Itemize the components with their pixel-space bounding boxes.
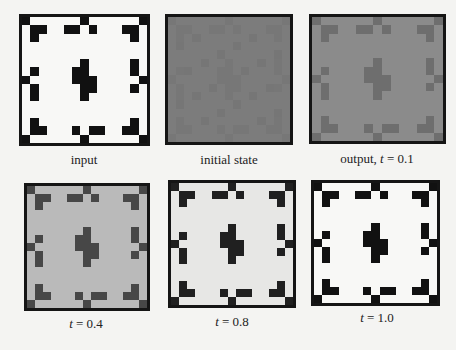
grid-cell [347,75,356,83]
grid-cell [282,17,290,25]
grid-cell [184,42,192,50]
grid-cell [429,215,437,223]
grid-cell [312,50,321,58]
grid-cell [355,183,363,191]
grid-cell [204,272,212,280]
grid-cell [228,256,236,264]
grid-cell [241,50,249,58]
grid-cell [171,183,179,191]
grid-cell [122,93,130,101]
grid-cell [269,248,277,256]
grid-cell [249,125,257,133]
grid-cell [363,231,371,239]
grid-cell [75,194,83,202]
grid-cell [408,100,417,108]
grid-cell [314,255,322,263]
grid-cell [168,50,176,58]
grid-cell [99,186,107,194]
grid-cell [249,92,257,100]
grid-cell [225,75,233,83]
grid-cell [434,34,443,42]
label-value: = 0.1 [384,151,414,166]
grid-cell [382,83,391,91]
grid-cell [429,199,437,207]
grid-cell [396,255,404,263]
grid-cell [391,108,400,116]
grid-cell [139,84,147,92]
grid-cell [404,239,412,247]
grid-cell [282,42,290,50]
grid-cell [114,101,122,109]
grid-cell [249,134,257,142]
grid-cell [429,231,437,239]
grid-cell [225,125,233,133]
grid-cell [396,183,404,191]
grid-cell [67,259,75,267]
grid-cell [252,281,260,289]
grid-cell [67,186,75,194]
grid-cell [274,17,282,25]
grid-cell [105,84,113,92]
pixel-grid [314,183,437,303]
grid-cell [371,263,379,271]
grid-cell [209,92,217,100]
grid-cell [228,207,236,215]
grid-cell [228,240,236,248]
grid-cell [417,58,426,66]
grid-cell [412,247,420,255]
grid-cell [107,251,115,259]
grid-cell [47,42,55,50]
grid-cell [59,219,67,227]
grid-cell [83,243,91,251]
grid-cell [355,207,363,215]
grid-cell [67,202,75,210]
grid-cell [347,124,356,132]
grid-cell [176,84,184,92]
grid-cell [217,84,225,92]
grid-cell [399,58,408,66]
grid-cell [347,295,355,303]
grid-cell [364,34,373,42]
grid-cell [408,124,417,132]
grid-cell [83,202,91,210]
grid-cell [244,216,252,224]
grid-cell [241,75,249,83]
grid-cell [114,25,122,33]
grid-cell [252,183,260,191]
grid-cell [347,100,356,108]
grid-cell [83,186,91,194]
grid-cell [115,251,123,259]
grid-cell [314,279,322,287]
grid-cell [122,126,130,134]
grid-cell [321,116,330,124]
grid-cell [371,231,379,239]
grid-cell [47,135,55,143]
grid-cell [382,75,391,83]
grid-cell [75,227,83,235]
grid-cell [99,292,107,300]
grid-cell [51,202,59,210]
grid-cell [212,264,220,272]
grid-cell [51,235,59,243]
grid-cell [355,255,363,263]
grid-cell [67,210,75,218]
grid-cell [321,100,330,108]
grid-cell [241,125,249,133]
grid-cell [330,271,338,279]
grid-cell [347,25,356,33]
grid-cell [55,67,63,75]
grid-cell [249,25,257,33]
grid-cell [285,289,293,297]
grid-cell [371,215,379,223]
grid-cell [80,51,88,59]
grid-cell [363,263,371,271]
grid-cell [314,239,322,247]
grid-cell [356,133,365,141]
grid-cell [171,207,179,215]
grid-cell [338,50,347,58]
grid-cell [252,297,260,305]
grid-cell [75,259,83,267]
grid-cell [347,271,355,279]
grid-cell [233,50,241,58]
grid-cell [195,191,203,199]
